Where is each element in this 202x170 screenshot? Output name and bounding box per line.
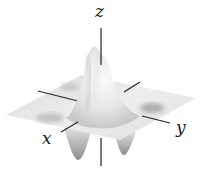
surface-plot-figure: z x y [0,0,202,170]
z-axis-label: z [95,3,104,20]
y-axis-label: y [176,119,186,136]
x-axis-label: x [42,130,52,147]
ripple-shade-right [140,103,164,113]
ripple-shade-back [60,83,80,91]
ripple-shade-left [36,113,64,123]
surface-plot-canvas [0,0,202,170]
